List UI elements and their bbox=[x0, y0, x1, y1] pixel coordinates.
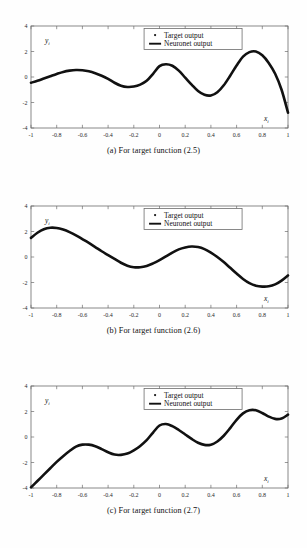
chart-svg-a: -1-0.8-0.6-0.4-0.200.20.40.60.81420-2-4y… bbox=[0, 14, 307, 142]
x-tick-label: 1 bbox=[287, 492, 290, 498]
y-tick-label: 0 bbox=[25, 434, 28, 440]
figure-caption-b: (b) For target function (2.6) bbox=[0, 326, 307, 335]
y-tick-label: 0 bbox=[25, 74, 28, 80]
x-tick-label: -0.6 bbox=[78, 132, 88, 138]
figure-b: -1-0.8-0.6-0.4-0.200.20.40.60.81420-2-4y… bbox=[0, 194, 307, 335]
y-tick-label: -4 bbox=[23, 485, 28, 491]
x-tick-label: 0.8 bbox=[259, 492, 267, 498]
legend-label-neuronet-output: Neuronet output bbox=[164, 399, 213, 408]
y-tick-label: -4 bbox=[23, 125, 28, 131]
figure-page: -1-0.8-0.6-0.4-0.200.20.40.60.81420-2-4y… bbox=[0, 0, 307, 548]
x-tick-label: 0 bbox=[158, 132, 161, 138]
x-tick-label: -0.4 bbox=[103, 312, 113, 318]
x-tick-label: -0.2 bbox=[129, 132, 139, 138]
legend-label-neuronet-output: Neuronet output bbox=[164, 39, 213, 48]
x-tick-label: -0.4 bbox=[103, 132, 113, 138]
y-tick-label: 0 bbox=[25, 254, 28, 260]
x-tick-label: 0.8 bbox=[259, 312, 267, 318]
x-tick-label: 1 bbox=[287, 132, 290, 138]
y-tick-label: 2 bbox=[25, 409, 28, 415]
figure-c: -1-0.8-0.6-0.4-0.200.20.40.60.81420-2-4y… bbox=[0, 374, 307, 515]
x-tick-label: -1 bbox=[29, 132, 34, 138]
legend-label-neuronet-output: Neuronet output bbox=[164, 219, 213, 228]
x-tick-label: -1 bbox=[29, 492, 34, 498]
y-tick-label: 4 bbox=[25, 383, 28, 389]
legend-marker-dot-icon bbox=[154, 34, 156, 36]
x-tick-label: 0.6 bbox=[233, 312, 241, 318]
chart-svg-b: -1-0.8-0.6-0.4-0.200.20.40.60.81420-2-4y… bbox=[0, 194, 307, 322]
x-tick-label: 0.4 bbox=[207, 312, 215, 318]
x-tick-label: -0.2 bbox=[129, 492, 139, 498]
figure-caption-a: (a) For target function (2.5) bbox=[0, 146, 307, 155]
plot-area-a: -1-0.8-0.6-0.4-0.200.20.40.60.81420-2-4y… bbox=[0, 14, 307, 142]
x-tick-label: -0.4 bbox=[103, 492, 113, 498]
x-tick-label: 0.6 bbox=[233, 492, 241, 498]
x-tick-label: 0.8 bbox=[259, 132, 267, 138]
x-tick-label: -0.8 bbox=[52, 492, 62, 498]
x-tick-label: 0 bbox=[158, 492, 161, 498]
y-tick-label: 4 bbox=[25, 23, 28, 29]
x-tick-label: -0.8 bbox=[52, 312, 62, 318]
chart-svg-c: -1-0.8-0.6-0.4-0.200.20.40.60.81420-2-4y… bbox=[0, 374, 307, 502]
x-tick-label: 0.2 bbox=[181, 312, 189, 318]
x-tick-label: 0.4 bbox=[207, 492, 215, 498]
legend-marker-dot-icon bbox=[154, 394, 156, 396]
plot-area-b: -1-0.8-0.6-0.4-0.200.20.40.60.81420-2-4y… bbox=[0, 194, 307, 322]
x-tick-label: 0.4 bbox=[207, 132, 215, 138]
y-tick-label: -2 bbox=[23, 460, 28, 466]
y-tick-label: -2 bbox=[23, 280, 28, 286]
y-tick-label: 2 bbox=[25, 229, 28, 235]
y-tick-label: -4 bbox=[23, 305, 28, 311]
figure-caption-c: (c) For target function (2.7) bbox=[0, 506, 307, 515]
x-tick-label: -1 bbox=[29, 312, 34, 318]
y-tick-label: 2 bbox=[25, 49, 28, 55]
x-tick-label: 0.6 bbox=[233, 132, 241, 138]
y-tick-label: -2 bbox=[23, 100, 28, 106]
x-tick-label: -0.8 bbox=[52, 132, 62, 138]
x-tick-label: 0.2 bbox=[181, 492, 189, 498]
x-tick-label: 1 bbox=[287, 312, 290, 318]
x-tick-label: -0.2 bbox=[129, 312, 139, 318]
legend-marker-dot-icon bbox=[154, 214, 156, 216]
x-tick-label: -0.6 bbox=[78, 492, 88, 498]
x-tick-label: 0.2 bbox=[181, 132, 189, 138]
x-tick-label: 0 bbox=[158, 312, 161, 318]
x-tick-label: -0.6 bbox=[78, 312, 88, 318]
y-tick-label: 4 bbox=[25, 203, 28, 209]
plot-area-c: -1-0.8-0.6-0.4-0.200.20.40.60.81420-2-4y… bbox=[0, 374, 307, 502]
figure-a: -1-0.8-0.6-0.4-0.200.20.40.60.81420-2-4y… bbox=[0, 14, 307, 155]
